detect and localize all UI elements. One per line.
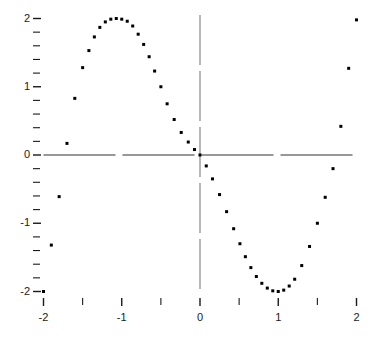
y-axis-tick-label: -2 [8, 286, 30, 297]
data-point [255, 275, 258, 278]
data-point [58, 195, 61, 198]
data-point [180, 131, 183, 134]
data-point [73, 97, 76, 100]
data-point [300, 264, 303, 267]
data-point [159, 85, 162, 88]
x-axis-tick-label: 1 [263, 312, 293, 323]
y-axis-tick-label: 1 [8, 81, 30, 92]
y-axis-tick-label: 0 [8, 149, 30, 160]
scatter-plot-figure: 210-1-2 -2-1012 [0, 0, 383, 338]
data-point [288, 285, 291, 288]
data-point [120, 18, 123, 21]
data-point [238, 242, 241, 245]
data-point [277, 290, 280, 293]
data-point [166, 102, 169, 105]
data-point [98, 26, 101, 29]
data-point [260, 282, 263, 285]
data-point [266, 287, 269, 290]
data-point [244, 255, 247, 258]
data-point [193, 148, 196, 151]
data-point [137, 33, 140, 36]
data-point [347, 67, 350, 70]
data-point [87, 49, 90, 52]
data-point [225, 210, 228, 213]
plot-canvas [0, 0, 383, 338]
data-point [65, 142, 68, 145]
data-point [324, 196, 327, 199]
tick-marks-group [33, 19, 357, 307]
data-point [249, 266, 252, 269]
y-axis-tick-label: -1 [8, 217, 30, 228]
x-axis-tick-label: 2 [342, 312, 372, 323]
data-point [42, 290, 45, 293]
data-point [293, 278, 296, 281]
x-axis-tick-label: -1 [107, 312, 137, 323]
data-point [93, 35, 96, 38]
x-axis-tick-label: -2 [29, 312, 59, 323]
data-point [218, 193, 221, 196]
data-point [104, 20, 107, 23]
data-point [271, 289, 274, 292]
y-axis-tick-label: 2 [8, 13, 30, 24]
data-point [316, 222, 319, 225]
data-point [126, 20, 129, 23]
data-point [50, 244, 53, 247]
data-point [187, 141, 190, 144]
data-point [153, 70, 156, 73]
data-point [81, 66, 84, 69]
data-point [339, 125, 342, 128]
data-point [142, 43, 145, 46]
data-point [332, 167, 335, 170]
data-point [109, 18, 112, 21]
data-point [199, 154, 202, 157]
data-point [211, 177, 214, 180]
data-point [355, 18, 358, 21]
data-point [131, 25, 134, 28]
x-axis-tick-label: 0 [185, 312, 215, 323]
data-point [232, 227, 235, 230]
data-point [308, 245, 311, 248]
data-point [115, 17, 118, 20]
data-point [173, 118, 176, 121]
data-point [282, 289, 285, 292]
data-point [205, 164, 208, 167]
data-point [148, 55, 151, 58]
